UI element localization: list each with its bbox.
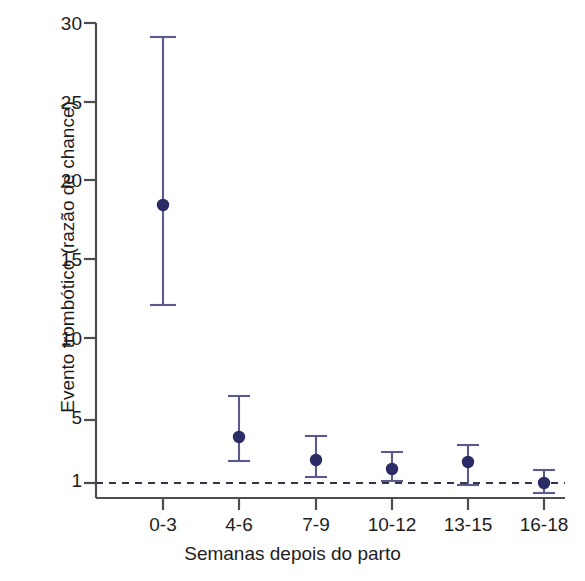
error-bar-4-6 [228,396,250,461]
error-bar-7-9 [305,436,327,477]
axis-lines [96,23,565,498]
x-tick-label-4-6: 4-6 [199,514,279,536]
x-tick-label-7-9: 7-9 [276,514,356,536]
data-point-marker [157,199,169,211]
x-axis-title: Semanas depois do parto [0,543,585,565]
x-tick-label-0-3: 0-3 [123,514,203,536]
x-axis-ticks [163,498,544,510]
data-point-marker [386,463,398,475]
y-axis-ticks [84,23,96,483]
chart-figure: Evento trombótico (razão de chance) 30 2… [0,0,585,581]
x-tick-label-13-15: 13-15 [428,514,508,536]
error-bar-13-15 [457,445,479,485]
x-tick-label-16-18: 16-18 [504,514,584,536]
x-tick-label-10-12: 10-12 [352,514,432,536]
plot-area [0,0,585,581]
data-point-marker [310,454,322,466]
data-point-marker [233,431,245,443]
error-bar-10-12 [381,452,403,481]
data-point-marker [538,477,550,489]
data-point-marker [462,456,474,468]
error-bar-0-3 [150,37,176,305]
error-bar-16-18 [533,470,555,493]
